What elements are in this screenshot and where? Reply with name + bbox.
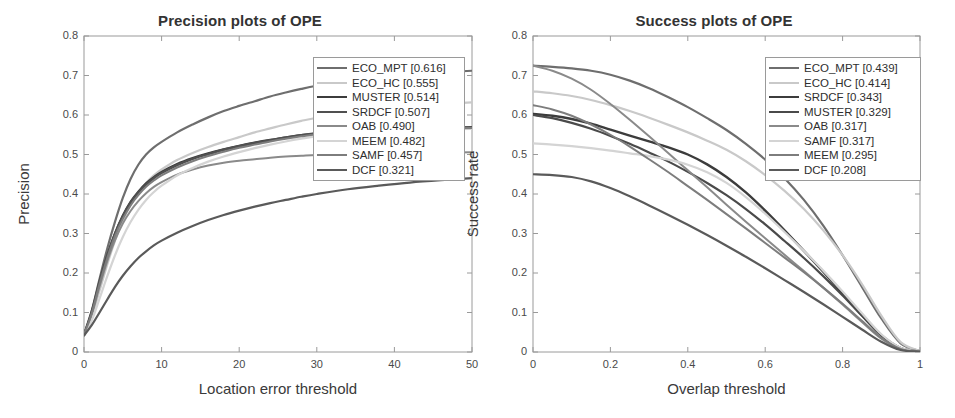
legend-item-label: DCF [0.321] (352, 164, 414, 176)
success-ytick-label: 0.1 (487, 306, 527, 318)
precision-ytick-label: 0 (38, 345, 78, 357)
success-ytick-label: 0 (487, 345, 527, 357)
legend-item-label: OAB [0.490] (352, 120, 415, 132)
success-plot-panel: Success plots of OPE Overlap threshold S… (477, 0, 954, 418)
legend-item-label: ECO_HC [0.555] (352, 77, 438, 89)
legend-item-label: MEEM [0.295] (804, 149, 877, 161)
success-xtick-label: 0.6 (745, 358, 785, 370)
legend-item-label: SRDCF [0.343] (804, 91, 882, 103)
success-xtick-label: 0.8 (823, 358, 863, 370)
legend-color-swatch-icon (769, 82, 799, 84)
precision-ytick-label: 0.6 (38, 108, 78, 120)
precision-xtick-label: 20 (219, 358, 259, 370)
legend-color-swatch-icon (317, 82, 347, 84)
legend-color-swatch-icon (317, 169, 347, 171)
legend-item-label: MUSTER [0.514] (352, 91, 439, 103)
legend-color-swatch-icon (769, 67, 799, 69)
legend-item-eco-mpt[interactable]: ECO_MPT [0.439] (769, 61, 916, 76)
legend-item-meem[interactable]: MEEM [0.482] (317, 134, 460, 149)
legend-item-dcf[interactable]: DCF [0.208] (769, 163, 916, 178)
legend-item-label: DCF [0.208] (804, 164, 866, 176)
legend-item-meem[interactable]: MEEM [0.295] (769, 148, 916, 163)
precision-xtick-label: 30 (297, 358, 337, 370)
legend-item-samf[interactable]: SAMF [0.457] (317, 148, 460, 163)
legend-item-eco-hc[interactable]: ECO_HC [0.555] (317, 76, 460, 91)
precision-ytick-label: 0.1 (38, 306, 78, 318)
legend-item-srdcf[interactable]: SRDCF [0.507] (317, 105, 460, 120)
legend-color-swatch-icon (317, 125, 347, 127)
legend-item-label: OAB [0.317] (804, 120, 867, 132)
precision-ytick-label: 0.2 (38, 266, 78, 278)
success-ytick-label: 0.2 (487, 266, 527, 278)
legend-item-eco-hc[interactable]: ECO_HC [0.414] (769, 76, 916, 91)
legend-color-swatch-icon (317, 111, 347, 113)
legend-color-swatch-icon (317, 96, 347, 98)
legend-color-swatch-icon (769, 96, 799, 98)
success-xtick-label: 0.2 (590, 358, 630, 370)
legend-color-swatch-icon (769, 154, 799, 156)
success-ytick-label: 0.8 (487, 29, 527, 41)
legend-color-swatch-icon (769, 169, 799, 171)
success-ytick-label: 0.3 (487, 227, 527, 239)
figure-root: Precision plots of OPE Location error th… (0, 0, 955, 418)
legend-item-oab[interactable]: OAB [0.317] (769, 119, 916, 134)
success-plot-ylabel: Success rate (464, 151, 481, 238)
precision-xtick-label: 40 (374, 358, 414, 370)
legend-item-label: MEEM [0.482] (352, 135, 425, 147)
legend-item-eco-mpt[interactable]: ECO_MPT [0.616] (317, 61, 460, 76)
legend-item-label: SAMF [0.317] (804, 135, 874, 147)
success-ytick-label: 0.6 (487, 108, 527, 120)
precision-ytick-label: 0.3 (38, 227, 78, 239)
legend-item-oab[interactable]: OAB [0.490] (317, 119, 460, 134)
precision-ytick-label: 0.4 (38, 187, 78, 199)
precision-ytick-label: 0.8 (38, 29, 78, 41)
legend-item-label: ECO_MPT [0.616] (352, 62, 446, 74)
precision-plot-ylabel: Precision (15, 163, 32, 225)
legend-color-swatch-icon (317, 154, 347, 156)
legend-item-muster[interactable]: MUSTER [0.514] (317, 90, 460, 105)
success-xtick-label: 0.4 (668, 358, 708, 370)
legend-item-label: SRDCF [0.507] (352, 106, 430, 118)
precision-ytick-label: 0.7 (38, 69, 78, 81)
success-ytick-label: 0.4 (487, 187, 527, 199)
precision-xtick-label: 10 (142, 358, 182, 370)
success-plot-legend[interactable]: ECO_MPT [0.439]ECO_HC [0.414]SRDCF [0.34… (765, 57, 921, 181)
legend-color-swatch-icon (769, 111, 799, 113)
precision-plot-xlabel: Location error threshold (84, 380, 472, 397)
success-xtick-label: 0 (513, 358, 553, 370)
success-ytick-label: 0.7 (487, 69, 527, 81)
success-ytick-label: 0.5 (487, 148, 527, 160)
legend-item-label: ECO_MPT [0.439] (804, 62, 898, 74)
legend-item-samf[interactable]: SAMF [0.317] (769, 134, 916, 149)
legend-color-swatch-icon (317, 140, 347, 142)
legend-item-label: MUSTER [0.329] (804, 106, 891, 118)
legend-item-dcf[interactable]: DCF [0.321] (317, 163, 460, 178)
precision-ytick-label: 0.5 (38, 148, 78, 160)
legend-item-label: ECO_HC [0.414] (804, 77, 890, 89)
legend-item-muster[interactable]: MUSTER [0.329] (769, 105, 916, 120)
precision-xtick-label: 0 (64, 358, 104, 370)
legend-item-srdcf[interactable]: SRDCF [0.343] (769, 90, 916, 105)
legend-color-swatch-icon (769, 125, 799, 127)
precision-plot-panel: Precision plots of OPE Location error th… (0, 0, 477, 418)
legend-color-swatch-icon (317, 67, 347, 69)
success-plot-xlabel: Overlap threshold (533, 380, 920, 397)
legend-item-label: SAMF [0.457] (352, 149, 422, 161)
precision-plot-legend[interactable]: ECO_MPT [0.616]ECO_HC [0.555]MUSTER [0.5… (313, 57, 465, 181)
legend-color-swatch-icon (769, 140, 799, 142)
success-xtick-label: 1 (900, 358, 940, 370)
